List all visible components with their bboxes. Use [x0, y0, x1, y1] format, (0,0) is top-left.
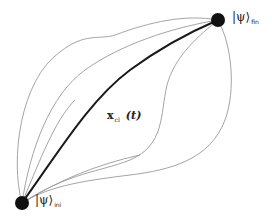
classical-path-symbol: x	[107, 109, 114, 122]
final-state-subscript: fin	[251, 18, 259, 25]
classical-path-argument: (t)	[126, 109, 142, 122]
final-state-symbol: |ψ⟩	[232, 10, 250, 24]
final-state-dot	[211, 13, 225, 27]
initial-state-symbol: |ψ⟩	[35, 193, 53, 207]
final-state-label: |ψ⟩fin	[232, 10, 259, 25]
initial-state-label: |ψ⟩ini	[35, 193, 61, 208]
classical-path-label: xcl(t)	[107, 109, 141, 123]
initial-state-subscript: ini	[54, 201, 61, 208]
classical-path-subscript: cl	[115, 116, 120, 123]
initial-state-dot	[15, 196, 29, 210]
